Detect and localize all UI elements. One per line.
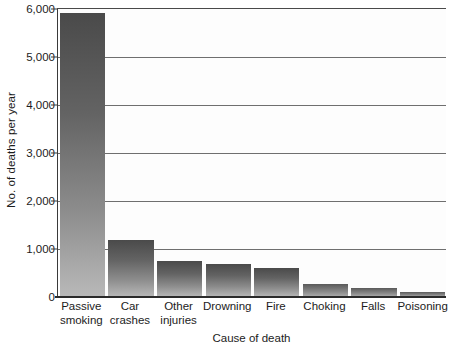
bar (108, 240, 153, 297)
bar (303, 284, 348, 297)
x-tick-label: Otherinjuries (154, 299, 203, 327)
x-tick-label-line1: Passive (61, 300, 101, 312)
bar (206, 264, 251, 297)
x-tick-label-line1: Other (164, 300, 193, 312)
y-axis-title-text: No. of deaths per year (5, 92, 17, 208)
bars-container (58, 9, 446, 297)
x-tick-label-line1: Poisoning (397, 300, 448, 312)
x-tick-label-line1: Car (121, 300, 140, 312)
x-axis-title: Cause of death (57, 332, 446, 344)
bar (254, 268, 299, 297)
x-tick-label: Fire (252, 299, 301, 313)
x-tick-label-line2: crashes (106, 313, 155, 327)
x-tick-label-line1: Fire (266, 300, 286, 312)
y-axis-title: No. of deaths per year (0, 0, 22, 300)
x-axis-line (55, 296, 446, 298)
x-axis-tick-labels: PassivesmokingCarcrashesOtherinjuriesDro… (57, 299, 446, 331)
x-tick-label: Poisoning (397, 299, 446, 313)
bar-chart: No. of deaths per year 01,0002,0003,0004… (0, 0, 465, 349)
plot-area (57, 9, 446, 297)
y-tick-mark (51, 57, 57, 58)
x-tick-label-line1: Choking (303, 300, 345, 312)
y-axis-tick-labels: 01,0002,0003,0004,0005,0006,000 (22, 0, 55, 300)
y-tick-mark (51, 153, 57, 154)
x-tick-label: Choking (300, 299, 349, 313)
x-tick-label: Falls (349, 299, 398, 313)
bar (157, 261, 202, 297)
x-tick-label-line2: injuries (154, 313, 203, 327)
bar (60, 13, 105, 297)
x-tick-label: Carcrashes (106, 299, 155, 327)
x-tick-label: Drowning (203, 299, 252, 313)
x-tick-label: Passivesmoking (57, 299, 106, 327)
y-tick-mark (51, 9, 57, 10)
x-tick-label-line1: Falls (361, 300, 385, 312)
y-tick-mark (51, 201, 57, 202)
y-tick-mark (51, 105, 57, 106)
y-tick-mark (51, 249, 57, 250)
x-tick-label-line2: smoking (57, 313, 106, 327)
x-tick-label-line1: Drowning (203, 300, 252, 312)
